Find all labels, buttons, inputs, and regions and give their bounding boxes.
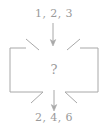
output-arrow-icon	[51, 90, 56, 111]
process-question-mark: ?	[0, 62, 108, 77]
input-arrow-icon	[50, 23, 55, 46]
input-values-label: 1, 2, 3	[0, 7, 108, 20]
function-machine-diagram: 1, 2, 3 ? 2, 4, 6	[0, 0, 108, 133]
output-values-label: 2, 4, 6	[0, 111, 108, 124]
